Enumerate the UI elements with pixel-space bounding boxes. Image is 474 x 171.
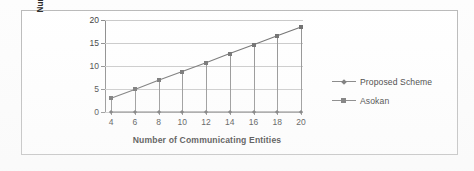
x-tick-label-10: 10 [178,117,187,127]
y-axis-title-line-1: Number of Contacts with [36,0,46,13]
data-point-proposed-scheme-x-12 [204,110,208,114]
chart-area: Number of Contacts with DTNNA 05101520 4… [22,11,459,156]
plot-region: 05101520 468101214161820 [105,20,303,112]
legend-item-asokan: Asokan [332,93,452,108]
x-tick-label-12: 12 [201,117,210,127]
legend-marker-diamond-icon [332,77,356,87]
data-point-proposed-scheme-x-20 [299,110,303,114]
y-tick-label-5: 5 [94,84,99,94]
y-axis-title-line-2: DTNNA [46,0,56,13]
x-tick-label-6: 6 [132,117,137,127]
data-point-proposed-scheme-x-8 [156,110,160,114]
data-point-asokan-x-6 [133,87,137,91]
x-tick-label-16: 16 [249,117,258,127]
x-tick-label-14: 14 [225,117,234,127]
data-point-proposed-scheme-x-4 [109,110,113,114]
legend-label-asokan: Asokan [360,96,389,106]
series-lines [105,20,303,112]
data-point-asokan-x-4 [109,96,113,100]
y-tick-label-10: 10 [90,61,99,71]
data-point-asokan-x-14 [228,52,232,56]
data-point-asokan-x-16 [252,43,256,47]
x-axis-title: Number of Communicating Entities [82,135,332,145]
data-point-asokan-x-20 [299,25,303,29]
screenshot-canvas: Number of Contacts with DTNNA 05101520 4… [0,0,474,171]
data-point-proposed-scheme-x-14 [228,110,232,114]
data-point-asokan-x-18 [275,34,279,38]
legend-item-proposed-scheme: Proposed Scheme [332,74,452,89]
y-tick-label-0: 0 [94,107,99,117]
data-point-asokan-x-12 [204,61,208,65]
y-tick-label-15: 15 [90,38,99,48]
y-axis-title: Number of Contacts with DTNNA [33,0,63,15]
data-point-proposed-scheme-x-6 [133,110,137,114]
legend-label-proposed-scheme: Proposed Scheme [360,77,432,87]
legend-marker-square-icon [332,96,356,106]
figure-frame: Number of Contacts with DTNNA 05101520 4… [21,10,458,155]
y-tick-label-20: 20 [90,15,99,25]
x-tick-label-18: 18 [273,117,282,127]
data-point-asokan-x-10 [180,70,184,74]
data-point-asokan-x-8 [157,78,161,82]
x-tick-label-8: 8 [156,117,161,127]
x-tick-label-4: 4 [109,117,114,127]
y-tick-0 [101,112,105,113]
x-tick-label-20: 20 [296,117,305,127]
legend: Proposed Scheme Asokan [332,74,452,112]
data-point-proposed-scheme-x-16 [251,110,255,114]
